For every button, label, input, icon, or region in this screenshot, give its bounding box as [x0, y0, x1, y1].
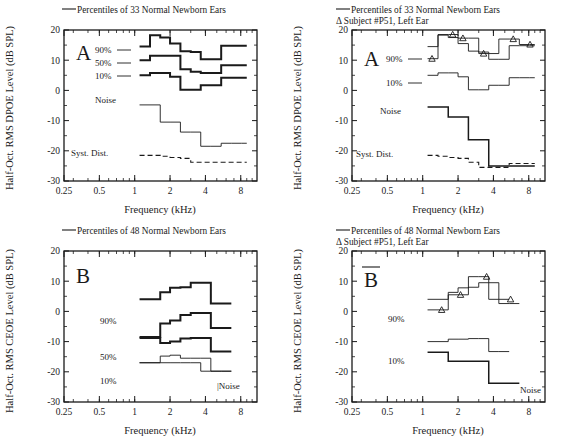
curve-label-noise: Noise [520, 385, 541, 395]
x-tick-label: 4 [203, 407, 208, 417]
curve-label-syst-dist: Syst. Dist. [356, 149, 393, 159]
y-tick-label: 20 [51, 25, 61, 35]
x-tick-label: 0.5 [381, 186, 393, 196]
x-tick-label: 1 [420, 407, 425, 417]
x-tick-label: 8 [526, 407, 531, 417]
y-tick-label: 20 [51, 246, 61, 256]
series-line-mid-upper [140, 313, 232, 337]
curve-label-p90: 90% [95, 45, 112, 55]
series-line-90- [428, 283, 520, 304]
x-tick-label: 8 [526, 186, 531, 196]
y-tick-label: 0 [343, 307, 348, 317]
legend-label-percentiles: Percentiles of 33 Normal Newborn Ears [351, 5, 500, 15]
curve-label-p50: 50% [100, 352, 117, 362]
y-tick-label: 10 [339, 56, 349, 66]
x-tick-label: 8 [238, 186, 243, 196]
y-tick-label: 10 [51, 56, 61, 66]
y-tick-label: 0 [55, 307, 60, 317]
series-line-10-floor [428, 339, 510, 352]
x-tick-label: 2 [168, 186, 173, 196]
x-tick-label: 2 [456, 186, 461, 196]
series-line-noise [428, 352, 520, 383]
series-line-noise [140, 363, 232, 371]
panel-letter: B [364, 268, 378, 292]
x-axis-title: Frequency (kHz) [124, 204, 196, 216]
panel-bottom-left-svg: Percentiles of 48 Normal Newborn Ears Ha… [0, 221, 288, 442]
panel-letter: A [364, 47, 380, 71]
x-tick-label: 0.25 [344, 407, 361, 417]
curve-label-p10: 10% [388, 356, 405, 366]
x-tick-label: 0.25 [344, 186, 361, 196]
plot-series [140, 283, 232, 371]
curve-label-p90: 90% [388, 314, 405, 324]
y-tick-label: 0 [55, 86, 60, 96]
x-tick-label: 1 [132, 407, 137, 417]
series-line-90- [140, 283, 232, 304]
panel-letter-group: B [362, 267, 380, 292]
curve-label-p90: 90% [386, 54, 403, 64]
panel-letter: A [76, 41, 92, 65]
plot-series [140, 35, 247, 162]
y-tick-label: -10 [47, 116, 60, 126]
curve-label-p10: 10% [386, 78, 403, 88]
series-line-10- [140, 73, 247, 90]
x-tick-label: 0.5 [93, 407, 105, 417]
plot-series [428, 273, 520, 383]
curve-label-p90: 90% [100, 316, 117, 326]
panel-top-right-svg: Percentiles of 33 Normal Newborn Ears Δ … [288, 0, 576, 221]
figure-root: Percentiles of 33 Normal Newborn Ears Ha… [0, 0, 576, 442]
curve-label-p10: 10% [95, 71, 112, 81]
y-axis-title: Half-Oct. RMS DPOE Level (dB SPL) [292, 26, 304, 190]
y-axis-title: Half-Oct. RMS CEOE Level (dB SPL) [4, 249, 16, 413]
series-line-noise [140, 105, 247, 146]
y-tick-label: 20 [339, 246, 349, 256]
panel-bottom-right-svg: Percentiles of 48 Normal Newborn Ears Δ … [288, 221, 576, 442]
y-tick-label: -20 [47, 367, 60, 377]
x-tick-label: 4 [491, 186, 496, 196]
panel-top-right: Percentiles of 33 Normal Newborn Ears Δ … [288, 0, 576, 221]
x-tick-label: 0.25 [56, 186, 73, 196]
x-tick-label: 0.5 [93, 186, 105, 196]
curve-label-noise: Noise [95, 95, 116, 105]
series-line-subject-p51-left-ear [428, 277, 510, 310]
legend-top-right: Percentiles of 33 Normal Newborn Ears Δ … [336, 5, 500, 27]
y-tick-label: -10 [335, 116, 348, 126]
curve-label-p50: 50% [95, 58, 112, 68]
y-tick-label: -30 [47, 397, 60, 407]
x-axis-title: Frequency (kHz) [124, 425, 196, 437]
legend-label-subject: Δ Subject #P51, Left Ear [336, 237, 429, 247]
panel-top-left-svg: Percentiles of 33 Normal Newborn Ears Ha… [0, 0, 288, 221]
x-tick-label: 1 [420, 186, 425, 196]
y-axis-title: Half-Oct. RMS DPOE Level (dB SPL) [4, 26, 16, 190]
panel-top-left: Percentiles of 33 Normal Newborn Ears Ha… [0, 0, 288, 221]
y-tick-label: -20 [335, 146, 348, 156]
y-tick-label: -10 [47, 337, 60, 347]
legend-bottom-right: Percentiles of 48 Normal Newborn Ears Δ … [336, 226, 500, 248]
y-tick-label: -30 [335, 397, 348, 407]
series-line-noise [428, 107, 535, 166]
series-line-10- [140, 355, 232, 371]
panel-bottom-left: Percentiles of 48 Normal Newborn Ears Ha… [0, 221, 288, 442]
y-tick-label: 10 [51, 277, 61, 287]
curve-label-noise: |Noise [217, 381, 240, 391]
panel-letter-group: A [76, 41, 92, 65]
y-tick-label: 0 [343, 86, 348, 96]
y-tick-label: -10 [335, 337, 348, 347]
series-line-50- [140, 338, 232, 352]
legend-label-percentiles: Percentiles of 48 Normal Newborn Ears [77, 226, 226, 236]
panel-letter: B [76, 264, 90, 288]
legend-top-left: Percentiles of 33 Normal Newborn Ears [62, 5, 226, 15]
y-tick-label: -20 [335, 367, 348, 377]
x-axis-title: Frequency (kHz) [412, 425, 484, 437]
legend-label-percentiles: Percentiles of 48 Normal Newborn Ears [351, 226, 500, 236]
y-tick-label: -30 [47, 176, 60, 186]
plot-series [428, 31, 535, 167]
x-tick-label: 2 [168, 407, 173, 417]
series-line-10- [428, 73, 535, 90]
x-tick-label: 0.5 [381, 407, 393, 417]
curve-label-p10: 10% [100, 376, 117, 386]
panel-bottom-right: Percentiles of 48 Normal Newborn Ears Δ … [288, 221, 576, 442]
legend-label-percentiles: Percentiles of 33 Normal Newborn Ears [77, 5, 226, 15]
series-line-syst-dist- [140, 155, 247, 162]
x-tick-label: 2 [456, 407, 461, 417]
